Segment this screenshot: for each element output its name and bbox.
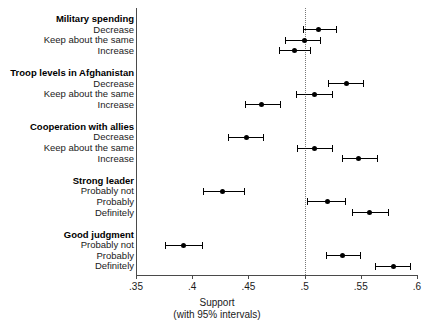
row-label: Probably not — [0, 240, 134, 250]
x-axis-tick — [361, 275, 362, 279]
x-axis-tick — [417, 275, 418, 279]
group-label-military-spending: Military spending — [0, 14, 134, 24]
ci-cap-low — [296, 91, 297, 98]
ci-cap-low — [228, 134, 229, 141]
row-label: Decrease — [0, 25, 134, 35]
estimate-point — [356, 156, 361, 161]
ci-cap-high — [202, 242, 203, 249]
group-label-cooperation-with-allies: Cooperation with allies — [0, 122, 134, 132]
plot-area: .35.4.45.5.55.6 Military spendingDecreas… — [0, 0, 434, 327]
row-label: Keep about the same — [0, 89, 134, 99]
y-axis-line — [136, 8, 137, 275]
estimate-point — [325, 199, 330, 204]
group-label-troop-levels-in-afghanistan: Troop levels in Afghanistan — [0, 68, 134, 78]
ci-cap-low — [375, 263, 376, 270]
x-axis-tick-label: .6 — [413, 281, 421, 292]
estimate-point — [181, 243, 186, 248]
ci-cap-high — [360, 252, 361, 259]
estimate-point — [302, 38, 307, 43]
group-label-strong-leader: Strong leader — [0, 176, 134, 186]
x-axis-tick-label: .35 — [129, 281, 143, 292]
x-axis-tick-label: .45 — [241, 281, 255, 292]
ci-cap-high — [336, 26, 337, 33]
row-label: Increase — [0, 46, 134, 56]
row-label: Decrease — [0, 79, 134, 89]
ci-cap-low — [342, 155, 343, 162]
estimate-point — [259, 102, 264, 107]
x-axis-line — [136, 275, 417, 276]
estimate-point — [292, 48, 297, 53]
row-label: Decrease — [0, 132, 134, 142]
ci-cap-high — [377, 155, 378, 162]
estimate-point — [344, 81, 349, 86]
ci-cap-high — [388, 209, 389, 216]
ci-cap-high — [310, 47, 311, 54]
ci-cap-low — [307, 198, 308, 205]
x-axis-tick — [248, 275, 249, 279]
estimate-point — [220, 189, 225, 194]
ci-cap-high — [320, 37, 321, 44]
ci-cap-high — [332, 91, 333, 98]
x-axis-subtitle: (with 95% intervals) — [0, 309, 434, 320]
row-label: Increase — [0, 154, 134, 164]
ci-cap-high — [345, 198, 346, 205]
ci-cap-high — [244, 188, 245, 195]
ci-cap-low — [165, 242, 166, 249]
row-label: Probably — [0, 251, 134, 261]
ci-cap-high — [410, 263, 411, 270]
ci-cap-low — [328, 80, 329, 87]
estimate-point — [316, 27, 321, 32]
estimate-point — [244, 135, 249, 140]
row-label: Increase — [0, 100, 134, 110]
x-axis-tick — [305, 275, 306, 279]
ci-cap-low — [245, 101, 246, 108]
row-label: Keep about the same — [0, 35, 134, 45]
x-axis-title: Support — [0, 297, 434, 308]
ci-cap-low — [279, 47, 280, 54]
forest-plot-figure: .35.4.45.5.55.6 Military spendingDecreas… — [0, 0, 434, 327]
ci-cap-low — [203, 188, 204, 195]
ci-cap-high — [363, 80, 364, 87]
row-label: Keep about the same — [0, 143, 134, 153]
x-axis-tick-label: .4 — [188, 281, 196, 292]
row-label: Definitely — [0, 208, 134, 218]
row-label: Definitely — [0, 261, 134, 271]
estimate-point — [367, 210, 372, 215]
row-label: Probably — [0, 197, 134, 207]
estimate-point — [391, 264, 396, 269]
ci-cap-high — [263, 134, 264, 141]
estimate-point — [312, 92, 317, 97]
ci-cap-low — [285, 37, 286, 44]
estimate-point — [340, 253, 345, 258]
x-axis-tick — [136, 275, 137, 279]
row-label: Probably not — [0, 186, 134, 196]
group-label-good-judgment: Good judgment — [0, 230, 134, 240]
x-axis-tick-label: .5 — [300, 281, 308, 292]
ci-cap-low — [303, 26, 304, 33]
estimate-point — [312, 146, 317, 151]
ci-cap-low — [297, 145, 298, 152]
x-axis-tick — [192, 275, 193, 279]
x-axis-tick-label: .55 — [354, 281, 368, 292]
ci-cap-high — [280, 101, 281, 108]
ci-cap-low — [352, 209, 353, 216]
reference-line — [305, 8, 306, 275]
ci-cap-high — [332, 145, 333, 152]
ci-cap-low — [326, 252, 327, 259]
